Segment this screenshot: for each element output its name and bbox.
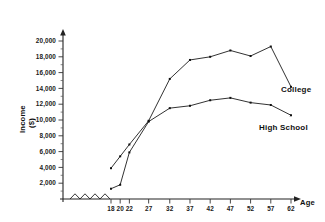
x-axis-break-icon: [70, 194, 110, 199]
y-tick-label: 16,000: [36, 69, 56, 77]
data-point: [119, 155, 121, 157]
data-series-group: [110, 46, 292, 190]
axes-group: [59, 29, 302, 204]
x-tick-label: 42: [207, 205, 215, 212]
x-tick-label: 27: [145, 205, 153, 212]
x-tick-label: 37: [186, 205, 194, 212]
data-point: [110, 188, 112, 190]
data-point: [128, 151, 130, 153]
x-tick-label: 20: [117, 205, 125, 212]
data-point: [229, 97, 231, 99]
y-tick-label: 6,000: [40, 148, 57, 156]
data-point: [250, 102, 252, 104]
data-point: [270, 104, 272, 106]
data-point: [189, 105, 191, 107]
data-point: [250, 55, 252, 57]
y-tick-label: 8,000: [40, 132, 57, 140]
data-point: [119, 184, 121, 186]
data-point: [209, 99, 211, 101]
data-point: [169, 78, 171, 80]
x-tick-label: 18: [107, 205, 115, 212]
data-point: [209, 56, 211, 58]
y-tick-label: 4,000: [40, 164, 57, 172]
data-point: [169, 107, 171, 109]
x-tick-label: 52: [247, 205, 255, 212]
y-tick-label: 14,000: [36, 85, 56, 93]
data-line-college: [111, 47, 291, 169]
series-label-college: College: [281, 85, 312, 94]
y-tick-labels: 2,0004,0006,0008,00010,00012,00014,00016…: [36, 37, 56, 187]
x-tick-labels: 1820222732374247525762: [107, 205, 295, 212]
data-line-high-school: [111, 98, 291, 189]
series-callouts: College High School: [259, 85, 312, 132]
income-vs-age-chart: 2,0004,0006,0008,00010,00012,00014,00016…: [0, 0, 325, 222]
x-tick-label: 47: [227, 205, 235, 212]
data-point: [110, 167, 112, 169]
y-tick-label: 18,000: [36, 53, 56, 61]
x-tick-label: 62: [287, 205, 295, 212]
y-tick-label: 12,000: [36, 100, 56, 108]
x-tick-label: 32: [166, 205, 174, 212]
series-label-high-school: High School: [259, 123, 308, 132]
y-axis-unit: ($): [27, 118, 36, 128]
x-axis-title: Age: [300, 198, 315, 207]
data-point: [128, 143, 130, 145]
y-tick-label: 20,000: [36, 37, 56, 45]
x-tick-label: 57: [267, 205, 275, 212]
y-tick-label: 10,000: [36, 116, 56, 124]
y-axis-arrow-icon: [60, 29, 66, 36]
x-tick-label: 22: [126, 205, 134, 212]
data-point: [229, 49, 231, 51]
y-axis-title-group: Income ($): [18, 105, 36, 133]
y-tick-label: 2,000: [40, 179, 57, 187]
chart-canvas: 2,0004,0006,0008,00010,00012,00014,00016…: [0, 0, 325, 222]
y-axis-title: Income: [18, 105, 27, 133]
data-point: [270, 46, 272, 48]
data-point: [148, 121, 150, 123]
data-point: [189, 59, 191, 61]
